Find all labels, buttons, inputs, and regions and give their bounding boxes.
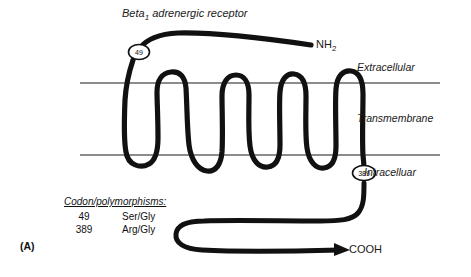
extracellular-region-label: Extracellular xyxy=(357,62,415,74)
codon-number: 389 xyxy=(64,223,112,236)
cooh-arrowhead-icon xyxy=(334,243,350,256)
panel-label: (A) xyxy=(20,241,35,253)
codon-variant: Ser/Gly xyxy=(112,210,155,223)
n-terminus-text: NH xyxy=(316,38,332,50)
codon-polymorphisms-table: 49 Ser/Gly 389 Arg/Gly xyxy=(64,210,155,236)
figure-title: Beta1 adrenergic receptor xyxy=(122,7,248,23)
codon-panel-heading: Codon/polymorphisms: xyxy=(64,196,166,207)
n-terminus-label: NH2 xyxy=(316,38,336,54)
figure-title-rest: adrenergic receptor xyxy=(149,7,247,19)
transmembrane-region-label: Transmembrane xyxy=(357,113,433,125)
figure-title-main: Beta xyxy=(122,7,145,19)
intracellular-region-label: Intracelluar xyxy=(364,167,416,179)
n-terminal-tail xyxy=(140,33,311,48)
table-row: 49 Ser/Gly xyxy=(64,210,155,223)
table-row: 389 Arg/Gly xyxy=(64,223,155,236)
c-terminal-tail xyxy=(176,183,364,251)
n-terminus-subscript: 2 xyxy=(332,44,336,53)
codon-variant: Arg/Gly xyxy=(112,223,155,236)
beta1-adrenergic-receptor-figure: 49 389 Beta1 adrenergic receptor NH2 COO… xyxy=(0,0,471,277)
c-terminus-label: COOH xyxy=(349,243,382,255)
codon-number: 49 xyxy=(64,210,112,223)
marker-49-label: 49 xyxy=(135,49,143,56)
codon-polymorphisms-panel: Codon/polymorphisms: 49 Ser/Gly 389 Arg/… xyxy=(64,196,166,236)
